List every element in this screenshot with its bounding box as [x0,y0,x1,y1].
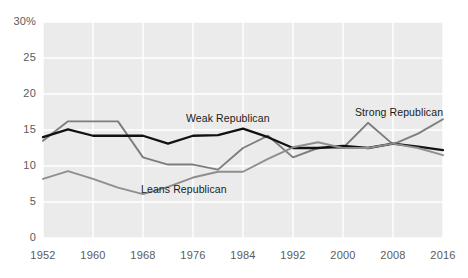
y-axis-tick-label: 30% [0,15,36,27]
x-axis-tick-label: 2008 [368,249,418,261]
x-axis-tick-label: 1984 [218,249,268,261]
y-axis-tick-label: 25 [0,51,36,63]
x-axis-tick-label: 1952 [18,249,68,261]
chart-container: 30%2520151050 19521960196819761984199220… [0,0,468,278]
x-axis-tick-label: 2016 [418,249,468,261]
x-axis-tick-label: 1960 [68,249,118,261]
weak-republican-label: Weak Republican [186,112,270,124]
y-axis-tick-label: 15 [0,123,36,135]
y-axis-tick-label: 5 [0,195,36,207]
x-axis-tick-label: 1968 [118,249,168,261]
y-axis-tick-label: 0 [0,231,36,243]
line-chart-plot [0,0,468,278]
x-axis-tick-label: 1976 [168,249,218,261]
leans-republican-label: Leans Republican [141,183,227,195]
y-axis-tick-label: 10 [0,159,36,171]
strong-republican-label: Strong Republican [355,106,443,118]
x-axis-tick-label: 2000 [318,249,368,261]
x-axis-tick-label: 1992 [268,249,318,261]
y-axis-tick-label: 20 [0,87,36,99]
